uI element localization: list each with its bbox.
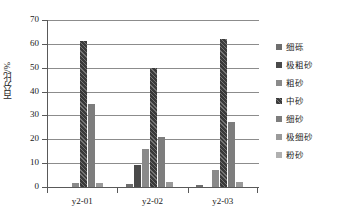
y-axis-tick-label: 70 (17, 15, 39, 24)
bar-group (118, 20, 188, 187)
legend-swatch-icon (276, 80, 282, 86)
bar (212, 170, 219, 187)
y-axis-tick (42, 115, 47, 116)
legend-item[interactable]: 粉砂 (276, 146, 336, 164)
y-axis-tick-label: 50 (17, 63, 39, 72)
legend-label: 粗砂 (286, 79, 304, 88)
plot-area: 010203040506070 (47, 20, 258, 187)
x-axis (47, 187, 258, 188)
x-axis-tick (47, 188, 48, 193)
x-axis-tick (257, 188, 258, 193)
bar (88, 104, 95, 187)
x-axis-label: y2-03 (212, 196, 233, 207)
legend-item[interactable]: 极粗砂 (276, 56, 336, 74)
legend-swatch-icon (276, 134, 282, 140)
legend-swatch-icon (276, 152, 282, 158)
legend-swatch-icon (276, 98, 282, 104)
x-axis-label: y2-01 (72, 196, 93, 207)
bar-series-container (48, 20, 259, 187)
legend-label: 极粗砂 (286, 61, 313, 70)
legend-label: 细砾 (286, 43, 304, 52)
bar-chart: 百分比/% 010203040506070 y2-01y2-02y2-03 细砾… (0, 0, 338, 224)
legend-swatch-icon (276, 44, 282, 50)
y-axis-tick-label: 0 (17, 182, 39, 191)
bar (80, 41, 87, 187)
x-axis-labels: y2-01y2-02y2-03 (47, 196, 258, 210)
bar-group (48, 20, 118, 187)
y-axis-title: 百分比/% (2, 62, 16, 99)
y-axis-tick (42, 92, 47, 93)
bar (220, 39, 227, 187)
legend-swatch-icon (276, 116, 282, 122)
y-axis-tick-label: 40 (17, 87, 39, 96)
y-axis-tick-label: 30 (17, 110, 39, 119)
y-axis-tick (42, 68, 47, 69)
legend-item[interactable]: 极细砂 (276, 128, 336, 146)
legend: 细砾极粗砂粗砂中砂细砂极细砂粉砂 (276, 38, 336, 164)
x-axis-tick (117, 188, 118, 193)
bar (134, 165, 141, 187)
y-axis-tick (42, 139, 47, 140)
bar (150, 68, 157, 187)
legend-item[interactable]: 粗砂 (276, 74, 336, 92)
legend-swatch-icon (276, 62, 282, 68)
bar-group (189, 20, 259, 187)
legend-item[interactable]: 中砂 (276, 92, 336, 110)
legend-item[interactable]: 细砾 (276, 38, 336, 56)
bar (228, 122, 235, 187)
legend-label: 极细砂 (286, 133, 313, 142)
legend-item[interactable]: 细砂 (276, 110, 336, 128)
y-axis-tick (42, 44, 47, 45)
legend-label: 细砂 (286, 115, 304, 124)
y-axis-tick-label: 60 (17, 39, 39, 48)
y-axis-tick-label: 20 (17, 134, 39, 143)
legend-label: 中砂 (286, 97, 304, 106)
x-axis-label: y2-02 (142, 196, 163, 207)
bar (158, 137, 165, 187)
y-axis-tick-label: 10 (17, 158, 39, 167)
bar (142, 149, 149, 187)
y-axis-tick (42, 163, 47, 164)
y-axis-tick (42, 20, 47, 21)
x-axis-tick (188, 188, 189, 193)
legend-label: 粉砂 (286, 151, 304, 160)
